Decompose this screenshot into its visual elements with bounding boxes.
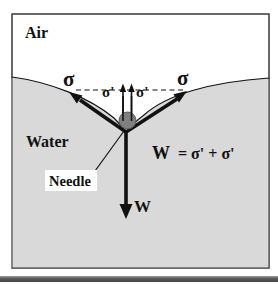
weight-label: W xyxy=(134,197,151,216)
sigma-label-left: σ xyxy=(63,67,75,91)
equation-lhs: W xyxy=(152,143,170,163)
sigma-prime-label-left: σ' xyxy=(102,84,114,100)
needle-label: Needle xyxy=(49,173,91,189)
sigma-prime-label-right: σ' xyxy=(136,84,148,100)
equation-label: W = σ' + σ' xyxy=(152,143,235,163)
air-label: Air xyxy=(25,24,48,41)
figure-surface-tension-needle: Needle Air Water σ σ σ' σ' W = σ' + σ' W xyxy=(0,0,278,284)
equation-rhs: = σ' + σ' xyxy=(178,145,235,162)
water-label: Water xyxy=(26,133,69,150)
needle-cross-section xyxy=(119,112,136,129)
sigma-label-right: σ xyxy=(177,66,189,90)
bottom-divider-bar xyxy=(0,276,278,282)
